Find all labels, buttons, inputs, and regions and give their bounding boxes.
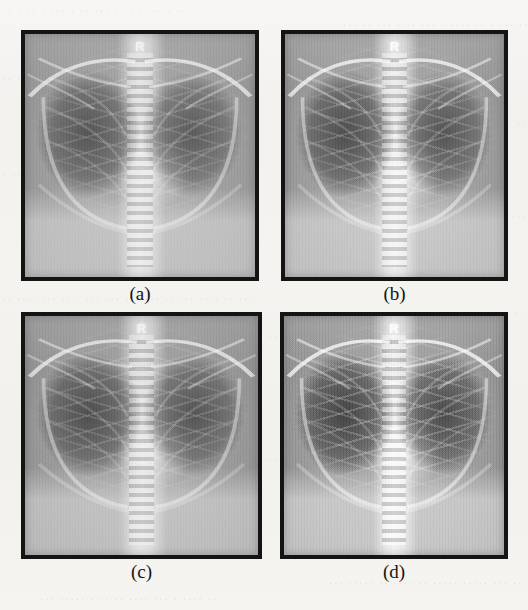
orientation-marker-a: R — [135, 39, 144, 54]
chest-radiograph-image-d: R — [284, 316, 504, 555]
orientation-marker-d: R — [389, 321, 398, 336]
panel-a-image-frame: R — [21, 30, 259, 281]
orientation-marker-b: R — [390, 39, 399, 54]
panel-c-image-frame: R — [21, 312, 262, 559]
chest-radiograph-image-c: R — [25, 316, 258, 555]
scan-noise-layer — [25, 316, 258, 555]
panel-label-d: (d) — [280, 562, 508, 581]
panel-b-image-frame: R — [281, 30, 508, 281]
orientation-marker-c: R — [137, 321, 146, 336]
scan-noise-layer — [285, 34, 504, 277]
scan-noise-layer — [284, 316, 504, 555]
chest-radiograph-image-b: R — [285, 34, 504, 277]
figure-panel-grid: R(a)R(b)R(c)R(d) — [0, 0, 528, 610]
scan-noise-layer — [25, 34, 255, 277]
panel-d-image-frame: R — [280, 312, 508, 559]
panel-label-b: (b) — [281, 284, 508, 303]
chest-radiograph-image-a: R — [25, 34, 255, 277]
panel-label-a: (a) — [21, 284, 259, 303]
panel-label-c: (c) — [21, 562, 262, 581]
